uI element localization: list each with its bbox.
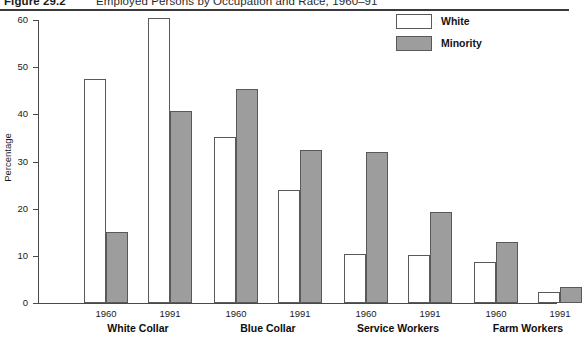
bars-area xyxy=(39,20,557,303)
y-axis-tick-label: 50 xyxy=(2,61,28,72)
y-axis-tick xyxy=(33,114,38,115)
bar-minority xyxy=(560,287,582,303)
x-axis-year-label: 1960 xyxy=(466,308,526,319)
bar-white xyxy=(538,292,560,303)
y-axis-tick xyxy=(33,162,38,163)
y-axis-tick-label: 60 xyxy=(2,14,28,25)
bar-minority xyxy=(366,152,388,303)
bar-minority xyxy=(430,212,452,304)
x-axis-year-label: 1960 xyxy=(336,308,396,319)
x-axis-year-label: 1991 xyxy=(530,308,586,319)
y-axis-tick-label: 30 xyxy=(2,156,28,167)
x-axis-year-label: 1991 xyxy=(400,308,460,319)
y-axis-tick xyxy=(33,67,38,68)
bar-white xyxy=(474,262,496,304)
x-axis-year-label: 1960 xyxy=(206,308,266,319)
y-axis-tick xyxy=(33,20,38,21)
bar-minority xyxy=(300,150,322,303)
bar-minority xyxy=(106,232,128,303)
legend-label-white: White xyxy=(441,15,470,27)
legend-swatch-minority xyxy=(396,36,432,51)
bar-white xyxy=(278,190,300,303)
bar-white xyxy=(214,137,236,303)
bar-white xyxy=(408,255,430,303)
legend-swatch-white xyxy=(396,14,432,29)
bar-minority xyxy=(170,111,192,303)
x-axis-year-label: 1960 xyxy=(76,308,136,319)
y-axis-tick xyxy=(33,256,38,257)
x-axis-group-label: Farm Workers xyxy=(448,322,586,334)
y-axis-tick-label: 20 xyxy=(2,203,28,214)
y-axis-tick-label: 40 xyxy=(2,108,28,119)
x-axis-year-label: 1991 xyxy=(270,308,330,319)
bar-minority xyxy=(496,242,518,303)
x-axis-labels: 19601991White Collar19601991Blue Collar1… xyxy=(0,303,569,340)
header-divider xyxy=(0,9,569,11)
bar-white xyxy=(344,254,366,303)
x-axis-year-label: 1991 xyxy=(140,308,200,319)
figure-title: Employed Persons by Occupation and Race,… xyxy=(96,0,378,7)
y-axis-tick xyxy=(33,209,38,210)
figure-header: Figure 29.2 Employed Persons by Occupati… xyxy=(0,0,569,13)
legend-label-minority: Minority xyxy=(441,37,482,49)
bar-white xyxy=(84,79,106,303)
legend: WhiteMinority xyxy=(396,14,556,56)
y-axis-tick-label: 10 xyxy=(2,250,28,261)
bar-white xyxy=(148,18,170,303)
figure-number: Figure 29.2 xyxy=(4,0,66,7)
bar-minority xyxy=(236,89,258,303)
